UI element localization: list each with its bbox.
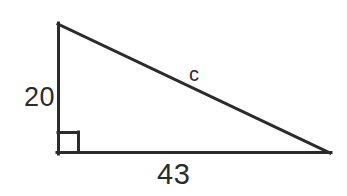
vertical-leg-label: 20	[24, 84, 55, 111]
hypotenuse-label: c	[189, 64, 199, 84]
hypotenuse-line	[58, 24, 330, 153]
right-angle-marker-icon	[58, 132, 79, 152]
horizontal-leg-label: 43	[157, 160, 190, 189]
triangle-figure: 20 43 c	[0, 0, 347, 196]
